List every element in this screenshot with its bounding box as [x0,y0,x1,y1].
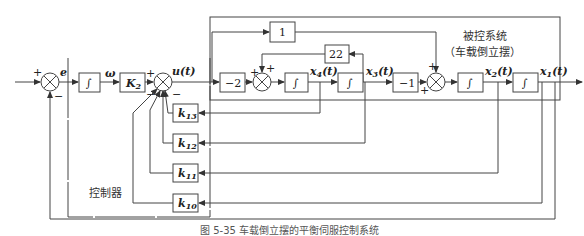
block-diagram-canvas: + − e ∫ ω K2 + u(t) − − −2 1 + + 22 ∫ x4… [0,0,584,236]
output-feedback-line [50,82,555,219]
k11-to-sum-line [150,91,173,173]
sign-minus: − [172,88,181,101]
sign-minus: − [54,90,63,103]
x1-label: x1(t) [539,65,568,79]
gain-22-label: 22 [329,48,343,61]
gain-neg1-label: −1 [399,77,415,90]
x4-label: x4(t) [309,65,338,79]
error-signal-label: e [60,66,67,79]
inner-summing-junction-2 [427,73,445,91]
sign-plus: + [266,62,275,75]
integrator-symbol: ∫ [522,77,528,90]
controller-label: 控制器 [89,186,122,200]
x2-label: x2(t) [484,65,513,79]
figure-caption: 图 5-35 车载倒立摆的平衡伺服控制系统 [200,224,379,236]
sign-plus: + [146,67,155,80]
control-summing-junction [154,73,172,91]
integrator-symbol: ∫ [86,77,92,90]
integrator-symbol: ∫ [293,77,299,90]
plant-label: 被控系统 [463,29,507,43]
control-signal-label: u(t) [172,65,196,78]
gain-one-label: 1 [279,26,286,39]
integrator-symbol: ∫ [347,77,353,90]
error-summing-junction [41,73,59,91]
sign-plus: + [428,60,437,73]
omega-label: ω [105,67,116,80]
integrator-symbol: ∫ [467,77,473,90]
x2-feedback-line [199,82,498,173]
sign-plus: + [33,66,42,79]
x3-label: x3(t) [365,65,394,79]
gain-neg2-label: −2 [225,77,241,90]
inner-summing-junction-1 [253,73,271,91]
plant-sublabel: （车载倒立摆） [444,45,521,59]
